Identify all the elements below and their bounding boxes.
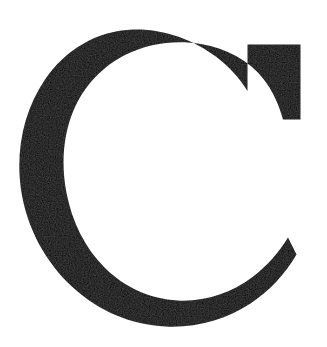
letter-c-glyph — [0, 0, 327, 347]
glyph-layer — [0, 0, 327, 347]
scanned-page: Letter C — [0, 0, 327, 347]
